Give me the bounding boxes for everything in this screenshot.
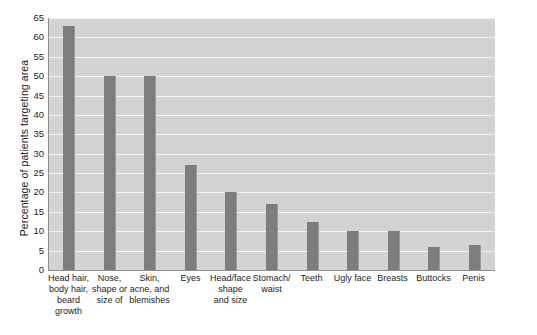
y-tick-label: 10 <box>20 226 44 236</box>
y-tick-label: 50 <box>20 71 44 81</box>
bar <box>144 76 156 270</box>
bar <box>469 245 481 270</box>
x-tick-label-line: and size <box>204 295 257 306</box>
x-tick-label: Penis <box>447 273 500 284</box>
bar <box>388 231 400 270</box>
bar <box>428 247 440 270</box>
y-tick-label: 30 <box>20 149 44 159</box>
bar-series <box>49 18 495 270</box>
y-tick-label: 5 <box>20 246 44 256</box>
y-tick-label: 40 <box>20 110 44 120</box>
bar <box>307 222 319 270</box>
bar <box>63 26 75 270</box>
y-tick-label: 20 <box>20 187 44 197</box>
bar-chart-figure: Percentage of patients targeting area 65… <box>0 0 537 335</box>
y-tick-label: 0 <box>20 265 44 275</box>
y-tick-label: 25 <box>20 168 44 178</box>
bar <box>266 204 278 270</box>
y-tick-label: 45 <box>20 91 44 101</box>
x-tick-label-line: waist <box>245 284 298 295</box>
y-tick-label: 35 <box>20 129 44 139</box>
y-tick-label: 55 <box>20 52 44 62</box>
bar <box>104 76 116 270</box>
x-axis-tick-labels: Head hair,body hair,beardgrowthNose,shap… <box>48 273 494 331</box>
y-tick-label: 65 <box>20 13 44 23</box>
x-tick-label-line: acne, and <box>123 284 176 295</box>
x-tick-label-line: growth <box>42 306 95 317</box>
bar <box>185 165 197 270</box>
x-tick-label-line: blemishes <box>123 295 176 306</box>
bar <box>225 192 237 270</box>
x-tick-label-line: Penis <box>447 273 500 284</box>
bar <box>347 231 359 270</box>
y-tick-label: 15 <box>20 207 44 217</box>
plot-area <box>48 18 495 271</box>
y-axis-tick-labels: 65605550454035302520151050 <box>20 18 44 270</box>
y-tick-label: 60 <box>20 32 44 42</box>
